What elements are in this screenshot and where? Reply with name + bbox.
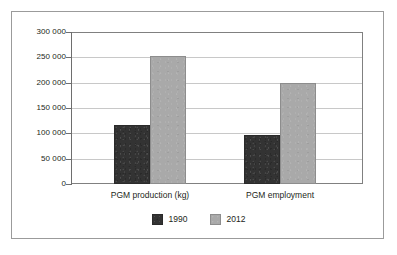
x-axis-category-label: PGM production (kg) [90, 190, 210, 200]
y-axis-tick-label: 100 000 [2, 129, 66, 137]
y-axis-tick-label: 250 000 [2, 53, 66, 61]
chart-figure: 300 000 250 000 200 000 150 000 100 000 … [0, 0, 397, 255]
y-axis-tick-label: 150 000 [2, 104, 66, 112]
y-axis-tick-label: 200 000 [2, 79, 66, 87]
x-axis-labels: PGM production (kg) PGM employment [72, 190, 363, 204]
gridline-150000 [72, 108, 363, 109]
bar-1990-pgm-employment[interactable] [244, 135, 280, 184]
legend-swatch-icon [210, 214, 221, 225]
y-axis-tick [66, 57, 71, 58]
y-axis-tick [66, 133, 71, 134]
bar-2012-pgm-production[interactable] [150, 56, 186, 184]
y-axis-tick-label: 0 [2, 180, 66, 188]
legend-label: 2012 [227, 215, 246, 224]
bar-2012-pgm-employment[interactable] [280, 83, 316, 184]
y-axis-tick [66, 159, 71, 160]
y-axis-tick-label: 300 000 [2, 28, 66, 36]
y-axis-tick-label: 50 000 [2, 155, 66, 163]
y-axis-tick [66, 108, 71, 109]
legend-item-1990[interactable]: 1990 [152, 214, 188, 225]
y-axis-tick [66, 32, 71, 33]
legend-item-2012[interactable]: 2012 [210, 214, 246, 225]
x-axis-category-label: PGM employment [220, 190, 340, 200]
gridline-300000 [72, 32, 363, 33]
plot-area [72, 32, 363, 184]
chart-legend: 1990 2012 [0, 212, 397, 226]
bar-1990-pgm-production[interactable] [114, 125, 150, 184]
y-axis-tick [66, 184, 71, 185]
legend-label: 1990 [169, 215, 188, 224]
y-axis-tick [66, 83, 71, 84]
gridline-250000 [72, 57, 363, 58]
gridline-200000 [72, 83, 363, 84]
plot-right-edge [362, 32, 363, 184]
y-axis-labels: 300 000 250 000 200 000 150 000 100 000 … [6, 32, 66, 184]
legend-swatch-icon [152, 214, 163, 225]
